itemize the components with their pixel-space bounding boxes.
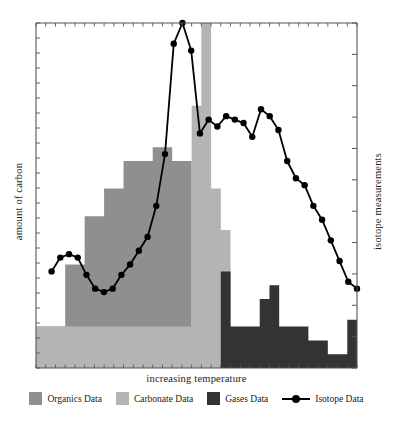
isotope-data-point (249, 134, 255, 140)
isotope-data-point (301, 182, 307, 188)
isotope-data-point (284, 158, 290, 164)
isotope-data-point (118, 272, 124, 278)
isotope-data-point (144, 234, 150, 240)
legend-label: Isotope Data (315, 394, 363, 404)
isotope-data-point (319, 216, 325, 222)
isotope-data-point (293, 175, 299, 181)
legend-label: Organics Data (47, 394, 101, 404)
isotope-data-point (258, 106, 264, 112)
legend-item[interactable]: Isotope Data (282, 392, 363, 405)
legend-item[interactable]: Gases Data (207, 392, 268, 405)
legend-swatch-icon (29, 392, 42, 405)
isotope-data-point (83, 272, 89, 278)
series-area-gases (221, 271, 357, 368)
y-axis-right-label: isotope measurements (372, 132, 383, 272)
x-axis-label: increasing temperature (36, 373, 357, 384)
isotope-data-point (48, 268, 54, 274)
isotope-data-point (214, 123, 220, 129)
isotope-data-point (153, 203, 159, 209)
isotope-data-point (101, 289, 107, 295)
isotope-data-point (66, 251, 72, 257)
isotope-data-point (240, 120, 246, 126)
isotope-data-point (310, 203, 316, 209)
legend-swatch-icon (116, 392, 129, 405)
isotope-data-point (275, 127, 281, 133)
isotope-data-point (136, 248, 142, 254)
legend-item[interactable]: Carbonate Data (116, 392, 193, 405)
legend-line-marker-icon (282, 392, 310, 405)
isotope-data-point (162, 151, 168, 157)
isotope-data-point (127, 261, 133, 267)
isotope-data-point (336, 258, 342, 264)
legend-item[interactable]: Organics Data (29, 392, 101, 405)
isotope-data-point (92, 285, 98, 291)
series-layer (36, 20, 360, 368)
chart-legend: Organics DataCarbonate DataGases DataIso… (0, 392, 393, 405)
isotope-data-point (205, 116, 211, 122)
isotope-data-point (109, 285, 115, 291)
isotope-data-point (197, 130, 203, 136)
y-axis-left-label: amount of carbon (13, 142, 24, 262)
isotope-data-point (75, 254, 81, 260)
isotope-data-point (345, 279, 351, 285)
legend-label: Carbonate Data (134, 394, 193, 404)
isotope-data-point (57, 254, 63, 260)
chart-figure: amount of carbon isotope measurements in… (0, 0, 393, 433)
isotope-data-point (171, 41, 177, 47)
isotope-data-point (232, 116, 238, 122)
isotope-data-point (267, 113, 273, 119)
legend-swatch-icon (207, 392, 220, 405)
isotope-data-point (223, 113, 229, 119)
chart-plot-area (0, 0, 393, 433)
isotope-data-point (188, 47, 194, 53)
isotope-data-point (328, 237, 334, 243)
legend-label: Gases Data (225, 394, 268, 404)
